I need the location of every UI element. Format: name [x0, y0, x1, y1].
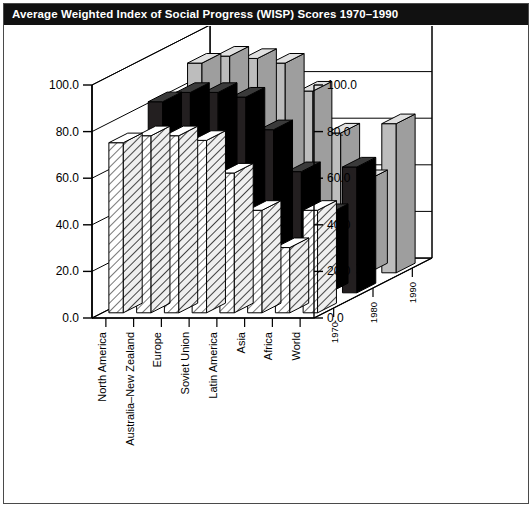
wisp-3d-bar-chart: 0.00.020.020.040.040.060.060.080.080.010…	[4, 26, 528, 503]
x-axis-category-label: Europe	[151, 332, 163, 367]
z-axis-year-label: 1970	[329, 322, 340, 343]
chart-title-bar: Average Weighted Index of Social Progres…	[4, 4, 528, 25]
x-axis-category-label: Asia	[235, 331, 247, 353]
chart-plot-area: 0.00.020.020.040.040.060.060.080.080.010…	[4, 26, 528, 503]
bar-1970-north-america	[109, 133, 142, 313]
y-axis-tick-right: 100.0	[327, 78, 357, 92]
y-axis-tick-right: 20.0	[327, 264, 351, 278]
y-axis-tick-right: 60.0	[327, 171, 351, 185]
y-axis-tick-right: 80.0	[327, 125, 351, 139]
y-axis-tick-left: 80.0	[56, 125, 80, 139]
page-title: Average Weighted Index of Social Progres…	[12, 8, 398, 20]
screenshot-root: Average Weighted Index of Social Progres…	[0, 0, 532, 507]
z-axis-year-label: 1990	[407, 282, 418, 303]
x-axis-category-label: World	[290, 332, 302, 361]
y-axis-tick-left: 0.0	[62, 311, 79, 325]
x-axis-category-label: Africa	[262, 331, 274, 360]
y-axis-tick-left: 20.0	[56, 264, 80, 278]
y-axis-tick-left: 100.0	[49, 78, 79, 92]
x-axis-category-label: Soviet Union	[179, 332, 191, 394]
x-axis-category-label: North America	[96, 331, 108, 402]
y-axis-tick-left: 60.0	[56, 171, 80, 185]
y-axis-tick-left: 40.0	[56, 218, 80, 232]
x-axis-category-label: Latin America	[207, 331, 219, 399]
x-axis-category-label: Australia–New Zealand	[124, 332, 136, 446]
y-axis-tick-right: 40.0	[327, 218, 351, 232]
z-axis-year-label: 1980	[368, 302, 379, 323]
